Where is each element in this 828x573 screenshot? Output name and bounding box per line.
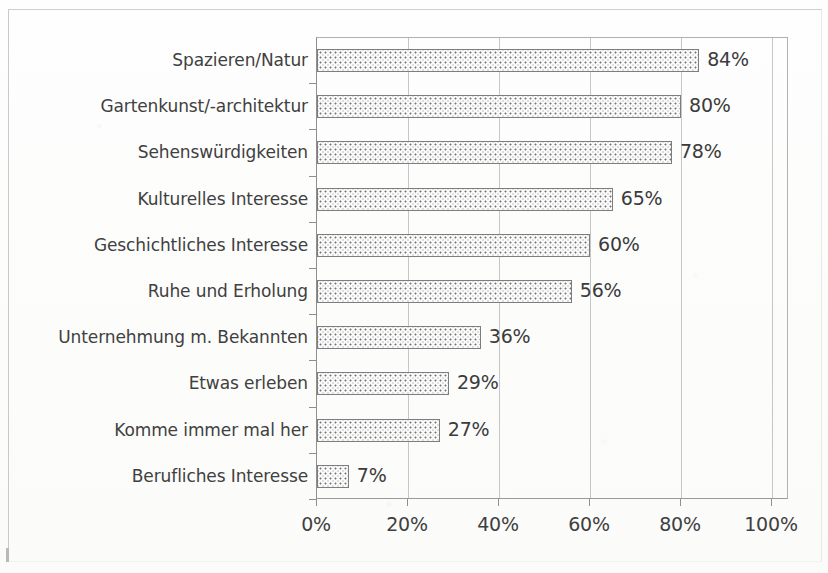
bar-value-label: 84% (707, 48, 749, 70)
bar (317, 141, 672, 164)
bar (317, 465, 349, 488)
category-axis-tick (309, 83, 316, 84)
bar-value-label: 7% (357, 464, 387, 486)
value-axis-label: 0% (271, 513, 361, 535)
category-axis-tick (309, 360, 316, 361)
bar-value-label: 27% (448, 418, 490, 440)
value-axis-label: 40% (453, 513, 543, 535)
bar-value-label: 36% (489, 325, 531, 347)
value-axis-tick (498, 499, 499, 506)
category-axis-tick (309, 499, 316, 500)
bar-value-label: 65% (621, 187, 663, 209)
bar-value-label: 60% (598, 233, 640, 255)
value-axis-label: 80% (635, 513, 725, 535)
value-axis-label: 60% (544, 513, 634, 535)
value-axis-label: 100% (726, 513, 816, 535)
category-axis-tick (309, 176, 316, 177)
category-label: Komme immer mal her (8, 420, 308, 440)
bar (317, 95, 681, 118)
bar-row: 80% (317, 84, 787, 130)
bar-row: 7% (317, 454, 787, 500)
bar (317, 49, 699, 72)
bar-row: 60% (317, 223, 787, 269)
category-label: Unternehmung m. Bekannten (8, 327, 308, 347)
horizontal-bar-chart: Spazieren/NaturGartenkunst/-architekturS… (0, 0, 828, 573)
bar-value-label: 29% (457, 371, 499, 393)
bar (317, 419, 440, 442)
bar-row: 65% (317, 177, 787, 223)
bar (317, 326, 481, 349)
value-axis-tick (316, 499, 317, 506)
category-label: Ruhe und Erholung (8, 281, 308, 301)
category-axis-tick (309, 129, 316, 130)
bar (317, 234, 590, 257)
category-label: Geschichtliches Interesse (8, 235, 308, 255)
chart-page: Spazieren/NaturGartenkunst/-architekturS… (0, 0, 828, 573)
value-axis-tick (680, 499, 681, 506)
bar-row: 29% (317, 361, 787, 407)
category-axis-tick (309, 407, 316, 408)
category-label: Etwas erleben (8, 373, 308, 393)
bar (317, 280, 572, 303)
value-axis-tick (589, 499, 590, 506)
category-label: Spazieren/Natur (8, 50, 308, 70)
category-axis-labels: Spazieren/NaturGartenkunst/-architekturS… (8, 37, 308, 499)
bar-row: 27% (317, 408, 787, 454)
category-label: Sehenswürdigkeiten (8, 142, 308, 162)
bar-row: 78% (317, 130, 787, 176)
category-label: Gartenkunst/-architektur (8, 96, 308, 116)
category-axis-tick (309, 268, 316, 269)
category-axis-tick (309, 453, 316, 454)
category-label: Berufliches Interesse (8, 466, 308, 486)
bar-row: 36% (317, 315, 787, 361)
category-axis-tick (309, 222, 316, 223)
bar (317, 188, 613, 211)
bar-row: 56% (317, 269, 787, 315)
bar-value-label: 78% (680, 140, 722, 162)
value-axis-label: 20% (362, 513, 452, 535)
bar-row: 84% (317, 38, 787, 84)
bar-value-label: 56% (580, 279, 622, 301)
category-label: Kulturelles Interesse (8, 189, 308, 209)
bar-value-label: 80% (689, 94, 731, 116)
plot-area: 84%80%78%65%60%56%36%29%27%7% (316, 37, 788, 499)
value-axis-tick (771, 499, 772, 506)
value-axis-tick (407, 499, 408, 506)
category-axis-tick (309, 314, 316, 315)
bar (317, 372, 449, 395)
